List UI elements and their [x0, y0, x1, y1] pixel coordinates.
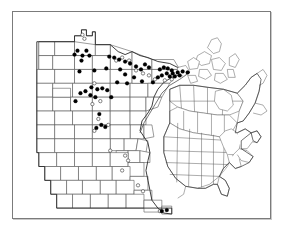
occurrence-filled-point: [160, 74, 164, 78]
occurrence-filled-point: [105, 88, 109, 92]
occurrence-filled-point: [186, 71, 190, 75]
occurrence-filled-point: [128, 62, 132, 66]
occurrence-filled-point: [73, 53, 77, 57]
occurrence-filled-point: [143, 63, 147, 67]
occurrence-filled-point: [178, 74, 182, 78]
occurrence-filled-point: [93, 95, 97, 99]
occurrence-filled-point: [84, 89, 88, 93]
occurrence-filled-point: [97, 112, 101, 116]
occurrence-filled-point: [74, 99, 78, 103]
occurrence-filled-point: [140, 79, 144, 83]
occurrence-open-point: [81, 33, 84, 36]
occurrence-filled-point: [79, 91, 83, 95]
occurrence-filled-point: [165, 208, 169, 212]
occurrence-filled-point: [76, 49, 80, 53]
occurrence-filled-point: [160, 209, 164, 213]
occurrence-open-point: [134, 69, 137, 72]
occurrence-filled-point: [99, 123, 103, 127]
occurrence-filled-point: [166, 67, 170, 71]
occurrence-filled-point: [104, 67, 108, 71]
occurrence-filled-point: [88, 54, 92, 58]
occurrence-filled-point: [109, 95, 113, 99]
occurrence-filled-point: [123, 73, 127, 77]
occurrence-filled-point: [85, 49, 89, 53]
occurrence-filled-point: [162, 66, 166, 70]
occurrence-open-point: [109, 149, 112, 152]
occurrence-filled-point: [165, 72, 169, 76]
occurrence-open-point: [97, 117, 100, 120]
occurrence-filled-point: [118, 68, 122, 72]
occurrence-filled-point: [89, 93, 93, 97]
map-frame: [12, 11, 271, 219]
occurrence-filled-point: [173, 74, 177, 78]
occurrence-filled-point: [100, 86, 104, 90]
occurrence-filled-point: [90, 85, 94, 89]
occurrence-filled-point: [107, 55, 111, 59]
occurrence-filled-point: [115, 80, 119, 84]
occurrence-filled-point: [139, 68, 143, 72]
occurrence-open-point: [120, 169, 123, 172]
occurrence-filled-point: [112, 56, 116, 60]
occurrence-open-point: [136, 184, 139, 187]
occurrence-open-point: [93, 82, 96, 85]
occurrence-filled-point: [95, 87, 99, 91]
occurrence-filled-point: [181, 70, 185, 74]
distribution-map-svg: [13, 12, 270, 218]
occurrence-filled-point: [123, 60, 127, 64]
occurrence-open-point: [163, 79, 166, 82]
occurrence-open-point: [91, 102, 94, 105]
occurrence-filled-point: [168, 74, 172, 78]
occurrence-filled-point: [156, 75, 160, 79]
occurrence-open-point: [141, 190, 144, 193]
occurrence-filled-point: [151, 80, 155, 84]
occurrence-filled-point: [92, 69, 96, 73]
occurrence-filled-point: [94, 126, 98, 130]
occurrence-filled-point: [117, 58, 121, 62]
occurrence-filled-point: [80, 59, 84, 63]
occurrence-open-point: [126, 159, 129, 162]
occurrence-filled-point: [103, 125, 107, 129]
occurrence-filled-point: [147, 66, 151, 70]
occurrence-filled-point: [158, 68, 162, 72]
occurrence-filled-point: [132, 75, 136, 79]
occurrence-filled-point: [125, 81, 129, 85]
figure-root: [0, 0, 285, 234]
occurrence-filled-point: [78, 70, 82, 74]
occurrence-filled-point: [134, 65, 138, 69]
occurrence-filled-point: [81, 54, 85, 58]
occurrence-open-point: [123, 154, 126, 157]
north-america-inset: [164, 38, 267, 198]
occurrence-open-point: [147, 74, 150, 77]
occurrence-open-point: [83, 37, 86, 40]
occurrence-open-point: [141, 72, 144, 75]
occurrence-open-point: [99, 99, 102, 102]
